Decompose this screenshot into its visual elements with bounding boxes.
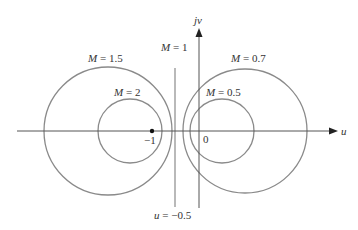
label-m-2: M = 2 [113,86,140,98]
imag-axis-label: jv [192,14,202,26]
label-m-1-5: M = 1.5 [87,52,123,64]
label-m-0-7: M = 0.7 [230,52,266,64]
critical-point [150,129,154,133]
origin-label: 0 [203,133,209,145]
imag-axis-arrow-icon [196,28,203,37]
label-u-minus-0-5: u = −0.5 [154,209,192,221]
label-m-1: M = 1 [160,41,187,53]
critical-point-label: −1 [144,134,156,146]
m-circles-diagram: u jv 0 −1 M = 1.5 M = 2 M = 0.7 M = 0.5 … [0,0,358,230]
real-axis-arrow-icon [329,128,338,135]
label-m-0-5: M = 0.5 [205,86,241,98]
real-axis-label: u [341,125,347,137]
